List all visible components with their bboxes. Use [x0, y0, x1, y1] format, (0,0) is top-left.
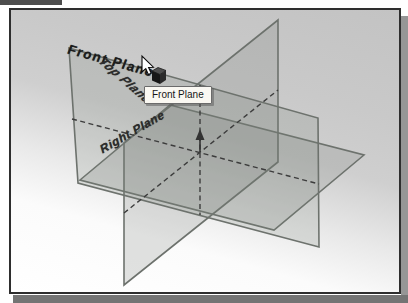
- arrow-cursor-icon: [142, 56, 153, 75]
- plane-badge-icon: [152, 68, 166, 85]
- cursor-overlay: [0, 0, 408, 303]
- screenshot-root: Front Plane Top Plane Right Plane Front …: [0, 0, 408, 303]
